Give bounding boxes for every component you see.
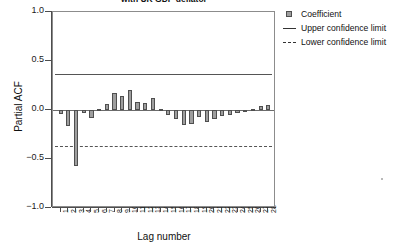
x-tick xyxy=(175,208,176,212)
plot-area xyxy=(52,11,275,207)
x-tick xyxy=(221,208,222,212)
bar xyxy=(59,110,63,114)
legend-item-coefficient: Coefficient xyxy=(281,7,407,21)
bar xyxy=(182,110,186,125)
x-tick xyxy=(106,208,107,212)
x-tick xyxy=(267,208,268,212)
bar xyxy=(120,96,124,110)
bar xyxy=(82,110,86,113)
x-tick xyxy=(206,208,207,212)
bar xyxy=(189,110,193,124)
bar xyxy=(251,109,255,111)
bar xyxy=(205,110,209,122)
zero-line xyxy=(53,110,274,111)
x-tick xyxy=(137,208,138,212)
bar xyxy=(112,93,116,110)
chart-title: with UK GDP deflator xyxy=(52,0,276,3)
bar xyxy=(97,109,101,111)
legend-item-upper-confidence-limit: Upper confidence limit xyxy=(281,21,407,35)
y-tick xyxy=(45,109,51,110)
solid-line-icon xyxy=(281,28,297,29)
bar xyxy=(66,110,70,126)
x-tick xyxy=(160,208,161,212)
bar xyxy=(259,106,263,110)
x-tick xyxy=(90,208,91,212)
dashed-line-icon xyxy=(281,42,297,43)
bar xyxy=(174,110,178,119)
x-tick xyxy=(114,208,115,212)
x-tick xyxy=(198,208,199,212)
bar xyxy=(166,110,170,115)
bar xyxy=(197,110,201,117)
bar xyxy=(212,110,216,119)
x-tick xyxy=(75,208,76,212)
pacf-chart: with UK GDP deflator Partial ACF Lag num… xyxy=(0,0,407,246)
y-tick-labels: 1.00.50.0−0.5−1.0 xyxy=(8,0,44,246)
x-tick xyxy=(98,208,99,212)
image-artifact xyxy=(381,178,383,180)
bar xyxy=(243,110,247,112)
x-tick xyxy=(67,208,68,212)
bar xyxy=(74,110,78,166)
x-tick xyxy=(60,208,61,212)
bar xyxy=(266,105,270,110)
bar xyxy=(159,109,163,111)
y-tick-label: −1.0 xyxy=(16,201,44,211)
x-tick xyxy=(144,208,145,212)
bar xyxy=(151,98,155,110)
bar xyxy=(89,110,93,118)
bar xyxy=(143,103,147,110)
y-tick-label: −0.5 xyxy=(16,152,44,162)
upper-confidence-limit-line xyxy=(55,74,272,75)
coefficient-swatch-icon xyxy=(281,11,297,17)
x-tick xyxy=(129,208,130,212)
bar xyxy=(135,102,139,110)
x-tick xyxy=(252,208,253,212)
x-tick xyxy=(183,208,184,212)
x-tick xyxy=(83,208,84,212)
legend-item-lower-confidence-limit: Lower confidence limit xyxy=(281,35,407,49)
x-axis-title: Lag number xyxy=(52,231,276,242)
lower-confidence-limit-line xyxy=(55,146,272,147)
x-tick xyxy=(213,208,214,212)
y-tick xyxy=(45,60,51,61)
legend-label: Lower confidence limit xyxy=(301,37,407,47)
bar xyxy=(228,110,232,115)
y-tick-label: 0.0 xyxy=(16,103,44,113)
x-tick xyxy=(237,208,238,212)
y-tick-label: 1.0 xyxy=(16,5,44,15)
x-tick xyxy=(260,208,261,212)
legend-label: Coefficient xyxy=(301,9,407,19)
bar xyxy=(220,110,224,116)
chart-legend: Coefficient Upper confidence limit Lower… xyxy=(281,7,407,49)
y-tick xyxy=(45,11,51,12)
bar xyxy=(235,110,239,113)
legend-label: Upper confidence limit xyxy=(301,23,407,33)
y-tick xyxy=(45,207,51,208)
x-tick xyxy=(167,208,168,212)
x-tick xyxy=(190,208,191,212)
bar xyxy=(105,104,109,110)
bar xyxy=(128,90,132,110)
y-tick-label: 0.5 xyxy=(16,54,44,64)
x-tick xyxy=(152,208,153,212)
x-tick xyxy=(244,208,245,212)
x-tick xyxy=(121,208,122,212)
y-tick xyxy=(45,158,51,159)
x-tick xyxy=(229,208,230,212)
